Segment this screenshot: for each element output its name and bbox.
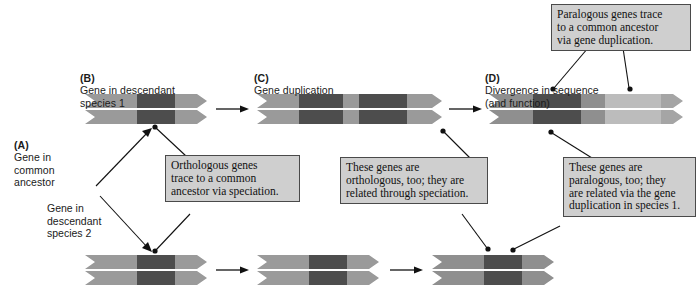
panel-label-d: (D) Divergence in sequence (and function…: [485, 59, 645, 109]
panel-b-tag: (B): [80, 72, 95, 84]
panel-d-text: Divergence in sequence (and function): [485, 84, 599, 109]
leader-paralogous-too-upper: [548, 129, 592, 158]
callout-orthologous-too: These genes are orthologous, too; they a…: [340, 157, 488, 204]
panel-b-text: Gene in descendant species 1: [80, 84, 175, 109]
panel-c-text: Gene duplication: [254, 84, 334, 96]
panel-label-a: (A) Gene in common ancestor: [14, 126, 94, 189]
panel-a-tag: (A): [14, 139, 29, 151]
panel-d-tag: (D): [485, 72, 500, 84]
panel-label-c: (C) Gene duplication: [254, 59, 414, 97]
leader-orthologous-too-lower: [462, 214, 491, 252]
callout-paralogous-too: These genes are paralogous, too; they ar…: [563, 157, 696, 217]
leader-orthologous-too-upper: [440, 128, 470, 158]
panel-a-text: Gene in common ancestor: [14, 151, 55, 188]
speciation-arrow-up: [96, 128, 152, 186]
leader-orthologous-trace-upper: [152, 124, 186, 156]
callout-orthologous-trace: Orthologous genes trace to a common ance…: [165, 155, 300, 202]
panel-c-tag: (C): [254, 72, 269, 84]
figure-canvas: (A) Gene in common ancestor (B) Gene in …: [0, 0, 700, 294]
label-species-2: Gene in descendant species 2: [47, 202, 137, 240]
callout-paralogous-trace: Paralogous genes trace to a common ances…: [551, 4, 691, 51]
leader-paralogous-too-lower: [510, 226, 560, 253]
panel-label-b: (B) Gene in descendant species 1: [80, 59, 230, 109]
leader-orthologous-trace-lower: [152, 214, 190, 254]
